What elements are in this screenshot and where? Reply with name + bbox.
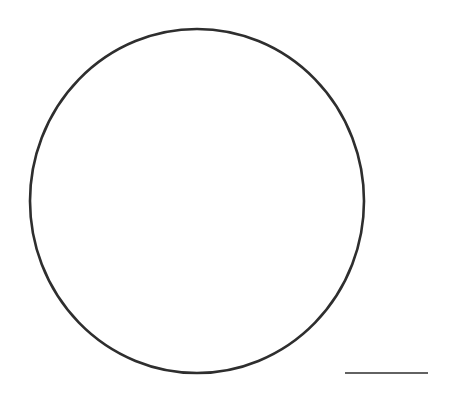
figure-background bbox=[0, 0, 449, 397]
figure-canvas bbox=[0, 0, 449, 397]
